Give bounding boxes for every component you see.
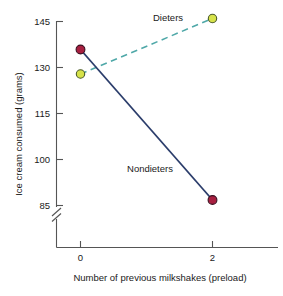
nondieters-point-x0 (76, 45, 85, 54)
interaction-line-chart: 145 130 115 100 85 0 2 Number of previou… (0, 0, 283, 296)
dieters-line (81, 19, 213, 75)
y-tick-labels: 145 130 115 100 85 (34, 16, 50, 211)
y-tick-label-100: 100 (34, 154, 50, 165)
x-tick-label-0: 0 (78, 252, 83, 263)
series-label-nondieters: Nondieters (127, 163, 173, 174)
series-label-dieters: Dieters (153, 12, 183, 23)
y-tick-label-130: 130 (34, 62, 50, 73)
dieters-point-x2 (208, 14, 216, 22)
x-tick-marks (81, 241, 213, 248)
y-tick-label-85: 85 (39, 200, 50, 211)
y-tick-marks (57, 22, 64, 206)
y-axis-title: Ice cream consumed (grams) (13, 72, 24, 196)
series-nondieters (76, 45, 217, 204)
dieters-point-x0 (76, 70, 84, 78)
x-tick-labels: 0 2 (78, 252, 215, 263)
x-tick-label-2: 2 (210, 252, 215, 263)
nondieters-point-x2 (208, 196, 217, 205)
nondieters-line (81, 50, 213, 201)
x-axis-title: Number of previous milkshakes (preload) (73, 272, 246, 283)
y-tick-label-115: 115 (35, 108, 50, 119)
chart-figure: 145 130 115 100 85 0 2 Number of previou… (0, 0, 283, 296)
y-tick-label-145: 145 (34, 16, 50, 27)
